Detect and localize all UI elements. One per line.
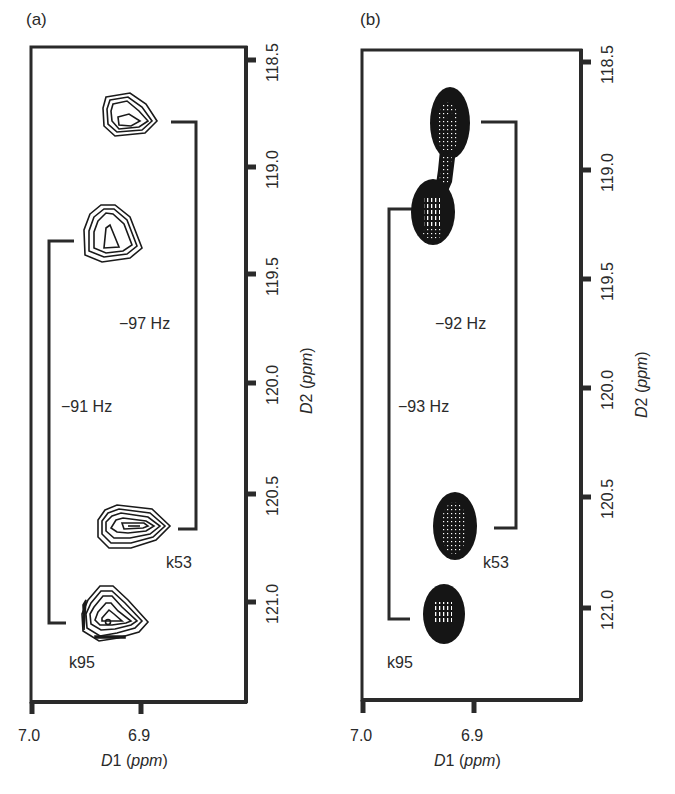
residue-label-k53: k53 [166, 554, 192, 572]
x-tick-label: 7.0 [18, 727, 40, 745]
y-tick-label: 121.0 [264, 584, 282, 624]
peak-k95-lower [423, 584, 465, 644]
peak-k95-lower [82, 586, 148, 641]
peak-k95-upper [84, 205, 142, 262]
peak-k53-upper [430, 87, 470, 159]
x-tick-label: 6.9 [128, 727, 150, 745]
y-axis-title: D2 (ppm) [633, 351, 651, 418]
residue-label-k95: k95 [387, 654, 413, 672]
y-tick-label: 119.0 [264, 150, 282, 189]
coupling-label-k53: −92 Hz [435, 315, 486, 333]
y-tick-label: 118.5 [599, 45, 617, 84]
peak-k95-upper [411, 179, 455, 245]
x-tick-label: 6.9 [461, 727, 483, 745]
spectrum-plot-a [0, 0, 337, 794]
residue-label-k95: k95 [69, 654, 95, 672]
x-axis-title: D1 (ppm) [101, 752, 168, 770]
coupling-label-k53: −97 Hz [119, 315, 170, 333]
residue-label-k53: k53 [483, 554, 509, 572]
y-axis-title: D2 (ppm) [298, 347, 316, 414]
y-tick-label: 119.0 [599, 153, 617, 192]
y-tick-label: 118.5 [264, 43, 282, 82]
coupling-bracket-k53 [171, 122, 196, 529]
spectrum-plot-b [338, 0, 675, 794]
coupling-bracket-k53 [481, 122, 516, 528]
plot-frame [31, 47, 246, 702]
plot-frame [362, 50, 581, 700]
x-axis-title: D1 (ppm) [434, 752, 501, 770]
y-tick-label: 121.0 [599, 590, 617, 630]
y-tick-label: 120.5 [599, 479, 617, 519]
y-tick-label: 119.5 [264, 257, 282, 296]
coupling-bracket-k95 [49, 241, 74, 623]
y-tick-label: 120.5 [264, 476, 282, 516]
peak-k53-lower [433, 492, 477, 560]
y-tick-label: 120.0 [264, 365, 282, 405]
coupling-label-k95: −93 Hz [398, 398, 449, 416]
peak-k53-lower [98, 505, 170, 548]
coupling-label-k95: −91 Hz [61, 398, 112, 416]
panel-b: (b) [338, 0, 675, 794]
y-tick-label: 119.5 [599, 262, 617, 301]
peak-k53-upper [103, 93, 157, 136]
x-tick-label: 7.0 [350, 727, 372, 745]
panel-a: (a) [0, 0, 337, 794]
y-tick-label: 120.0 [599, 370, 617, 410]
